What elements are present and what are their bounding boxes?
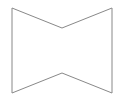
shape-svg — [0, 0, 124, 101]
figure-canvas — [0, 0, 124, 101]
canvas-background — [0, 0, 124, 101]
